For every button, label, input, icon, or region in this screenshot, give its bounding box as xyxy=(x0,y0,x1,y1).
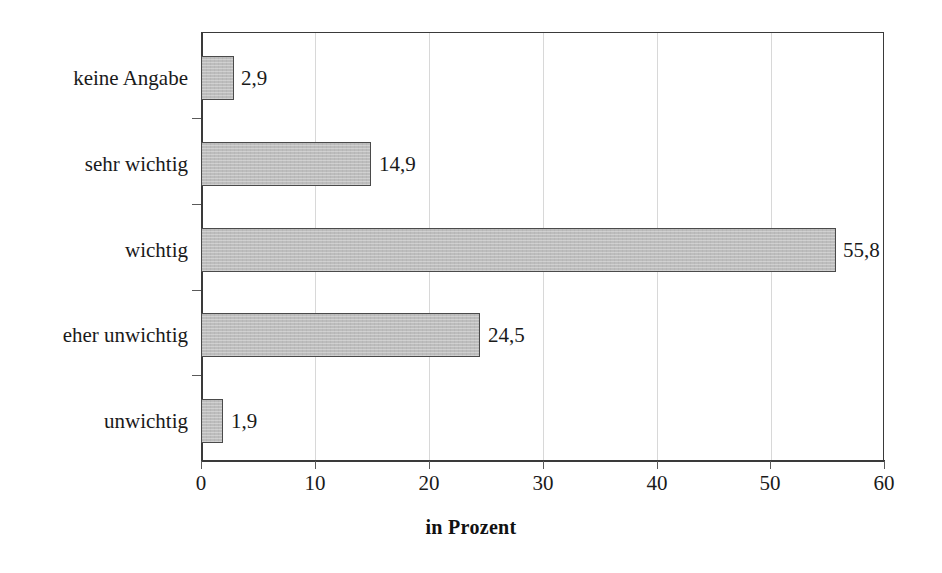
y-axis-tick xyxy=(192,118,201,119)
bar-keine-angabe xyxy=(201,56,234,100)
x-axis-tick xyxy=(770,461,771,469)
bar-wichtig xyxy=(201,228,836,272)
x-tick-label-10: 10 xyxy=(285,470,345,496)
x-axis-tick xyxy=(201,461,202,469)
x-axis-tick xyxy=(884,461,885,469)
category-label-eher-unwichtig: eher unwichtig xyxy=(63,322,188,348)
x-tick-label-30: 30 xyxy=(513,470,573,496)
bar-chart: 0 10 20 30 40 50 60 keine Angabe sehr wi… xyxy=(0,0,942,573)
y-axis-tick xyxy=(192,375,201,376)
x-axis-title: in Prozent xyxy=(0,516,942,539)
x-tick-label-0: 0 xyxy=(171,470,231,496)
y-axis-tick xyxy=(192,290,201,291)
bar-eher-unwichtig xyxy=(201,313,480,357)
category-label-keine-angabe: keine Angabe xyxy=(73,65,188,91)
bar-value-wichtig: 55,8 xyxy=(843,237,880,263)
x-axis-tick xyxy=(315,461,316,469)
x-tick-label-20: 20 xyxy=(399,470,459,496)
x-tick-label-40: 40 xyxy=(627,470,687,496)
bar-unwichtig xyxy=(201,399,223,443)
bar-value-eher-unwichtig: 24,5 xyxy=(488,322,525,348)
bar-sehr-wichtig xyxy=(201,142,371,186)
x-axis-tick xyxy=(657,461,658,469)
bar-value-unwichtig: 1,9 xyxy=(231,408,257,434)
x-tick-label-60: 60 xyxy=(854,470,914,496)
bar-value-keine-angabe: 2,9 xyxy=(241,65,267,91)
y-axis-tick xyxy=(192,204,201,205)
category-label-sehr-wichtig: sehr wichtig xyxy=(85,151,188,177)
x-axis-tick xyxy=(543,461,544,469)
x-tick-label-50: 50 xyxy=(740,470,800,496)
category-label-wichtig: wichtig xyxy=(125,237,188,263)
x-axis-tick xyxy=(429,461,430,469)
bar-value-sehr-wichtig: 14,9 xyxy=(379,151,416,177)
category-label-unwichtig: unwichtig xyxy=(104,408,188,434)
